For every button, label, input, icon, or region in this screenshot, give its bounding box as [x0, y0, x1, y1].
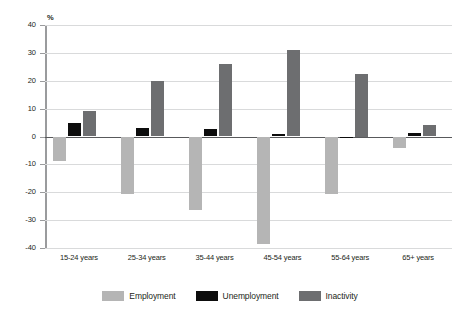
bar-inactivity-15-24-years: [83, 111, 96, 137]
legend-swatch-employment: [102, 291, 124, 301]
x-axis-label-35-44-years: 35-44 years: [181, 253, 249, 262]
gridline: [45, 109, 452, 110]
x-axis-label-15-24-years: 15-24 years: [45, 253, 113, 262]
bar-chart: % 403020100-10-20-30-40 15-24 years25-34…: [0, 0, 460, 320]
y-axis-tick-label: -30: [0, 216, 36, 224]
x-axis-label-55-64-years: 55-64 years: [316, 253, 384, 262]
y-axis-tick-label: 40: [0, 21, 36, 29]
gridline: [45, 164, 452, 165]
legend-label-employment: Employment: [129, 291, 175, 301]
y-axis-unit-label: %: [47, 13, 54, 22]
bar-employment-55-64-years: [325, 137, 338, 194]
zero-baseline: [45, 137, 452, 139]
x-axis-label-45-54-years: 45-54 years: [249, 253, 317, 262]
y-axis-tick-label: -40: [0, 244, 36, 252]
chart-legend: EmploymentUnemploymentInactivity: [0, 291, 460, 301]
bar-employment-15-24-years: [53, 137, 66, 162]
y-axis-tick-label: -10: [0, 160, 36, 168]
y-axis-tick-label: 10: [0, 105, 36, 113]
y-axis-tick-label: 30: [0, 49, 36, 57]
bar-unemployment-55-64-years: [340, 137, 353, 139]
bar-employment-45-54-years: [257, 137, 270, 244]
bar-inactivity-65-years: [423, 125, 436, 137]
x-axis-tick-labels: 15-24 years25-34 years35-44 years45-54 y…: [45, 253, 452, 269]
legend-item-inactivity[interactable]: Inactivity: [299, 291, 358, 301]
bar-inactivity-55-64-years: [355, 74, 368, 137]
legend-swatch-inactivity: [299, 291, 321, 301]
bar-employment-25-34-years: [121, 137, 134, 194]
gridline: [45, 25, 452, 26]
bar-unemployment-35-44-years: [204, 129, 217, 136]
bar-unemployment-65-years: [408, 133, 421, 136]
bar-inactivity-45-54-years: [287, 50, 300, 136]
y-axis-tick-label: 20: [0, 77, 36, 85]
bar-inactivity-25-34-years: [151, 81, 164, 136]
y-axis-tick-label: -20: [0, 188, 36, 196]
gridline: [45, 192, 452, 193]
gridline: [45, 53, 452, 54]
legend-label-unemployment: Unemployment: [223, 291, 279, 301]
plot-area: [45, 25, 452, 248]
legend-label-inactivity: Inactivity: [326, 291, 358, 301]
legend-swatch-unemployment: [196, 291, 218, 301]
bar-employment-35-44-years: [189, 137, 202, 211]
y-axis-tick-label: 0: [0, 133, 36, 141]
bar-unemployment-25-34-years: [136, 128, 149, 137]
bar-unemployment-15-24-years: [68, 123, 81, 136]
legend-item-unemployment[interactable]: Unemployment: [196, 291, 279, 301]
x-axis-label-25-34-years: 25-34 years: [113, 253, 181, 262]
bar-employment-65-years: [393, 137, 406, 148]
x-axis-label-65-years: 65+ years: [384, 253, 452, 262]
bar-inactivity-35-44-years: [219, 64, 232, 136]
gridline: [45, 220, 452, 221]
bar-unemployment-45-54-years: [272, 134, 285, 137]
gridline: [45, 81, 452, 82]
gridline: [45, 248, 452, 249]
legend-item-employment[interactable]: Employment: [102, 291, 175, 301]
